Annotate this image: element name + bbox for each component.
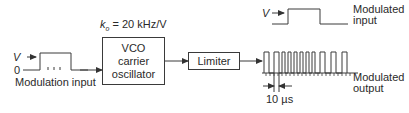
modulated-output-label-2: output bbox=[353, 82, 384, 94]
modulated-input-level-label: V bbox=[262, 7, 269, 19]
modulation-input-high-label: V bbox=[13, 51, 20, 63]
modulation-input-waveform bbox=[23, 53, 88, 70]
vco-line-1: VCO bbox=[102, 42, 165, 55]
modulated-input-waveform bbox=[272, 9, 348, 24]
modulated-output-waveform bbox=[262, 52, 358, 92]
gain-value: = 20 kHz/V bbox=[109, 18, 166, 30]
period-label: 10 µs bbox=[266, 93, 293, 105]
vco-line-3: oscillator bbox=[102, 68, 165, 81]
vco-block-text: VCO carrier oscillator bbox=[102, 42, 165, 81]
modulated-input-label-2: input bbox=[353, 14, 377, 26]
vco-gain-label: ko = 20 kHz/V bbox=[100, 18, 167, 35]
modulation-input-low-label: 0 bbox=[14, 64, 20, 76]
limiter-block-text: Limiter bbox=[188, 55, 240, 68]
vco-line-2: carrier bbox=[102, 55, 165, 68]
modulation-input-label: Modulation input bbox=[15, 76, 96, 88]
